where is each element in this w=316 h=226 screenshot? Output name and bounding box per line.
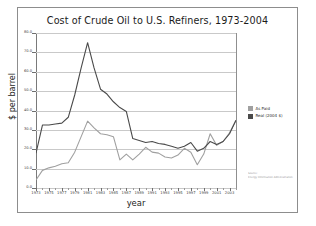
x-axis-tick-label: 2003 [225,192,234,196]
legend-item-label: As Paid [256,107,270,111]
x-axis-tick-minor [184,188,185,190]
x-axis-tick-minor [171,188,172,190]
source-line-2: Energy Information Administration [248,176,304,180]
chart-legend: As PaidReal (2004 $) [248,106,283,121]
x-axis-tick-minor [42,188,43,190]
chart-figure: Cost of Crude Oil to U.S. Refiners, 1973… [0,0,316,226]
y-axis-tick-label: 60.0 [18,70,32,74]
chart-title: Cost of Crude Oil to U.S. Refiners, 1973… [17,15,298,26]
x-axis-tick-label: 1973 [31,192,40,196]
x-axis-tick-minor [223,188,224,190]
y-axis-tick-label: 80.0 [18,31,32,35]
x-axis-tick-label: 1975 [44,192,53,196]
x-axis-tick-minor [197,188,198,190]
legend-swatch-icon [248,106,253,111]
x-axis-tick-label: 1981 [83,192,92,196]
series-lines [36,33,236,188]
x-axis-tick-minor [133,188,134,190]
plot-right-border [236,33,237,189]
x-axis-tick-label: 1999 [199,192,208,196]
legend-item[interactable]: Real (2004 $) [248,114,283,119]
y-axis-tick-label: 30.0 [18,128,32,132]
x-axis-tick-label: 1977 [57,192,66,196]
series-line-as-paid [36,120,236,180]
x-axis-tick-minor [120,188,121,190]
y-axis-tick-label: 20.0 [18,147,32,151]
x-axis-tick-label: 1995 [173,192,182,196]
x-axis-tick-label: 1993 [160,192,169,196]
x-axis-tick-label: 1997 [186,192,195,196]
y-axis-tick-label: 50.0 [18,89,32,93]
x-axis-tick-minor [68,188,69,190]
gridline [36,188,236,189]
x-axis-tick-minor [159,188,160,190]
x-axis-tick-minor [107,188,108,190]
y-axis-tick-label: 0.0 [18,186,32,190]
y-axis-label: $ per barrel [8,64,17,130]
y-axis-tick-label: 70.0 [18,50,32,54]
x-axis-tick-minor [210,188,211,190]
x-axis-label: year [36,198,236,208]
x-axis-tick-label: 1989 [135,192,144,196]
x-axis-tick-minor [94,188,95,190]
x-axis-tick-label: 1987 [122,192,131,196]
x-axis-tick-label: 1991 [147,192,156,196]
series-line-real-2004 [36,43,236,153]
x-axis-tick-minor [81,188,82,190]
y-axis-tick-label: 40.0 [18,109,32,113]
x-axis-tick-label: 1983 [96,192,105,196]
x-axis-tick-minor [236,188,237,190]
x-axis-tick-label: 1979 [70,192,79,196]
x-axis-tick-label: 1985 [109,192,118,196]
x-axis-tick-label: 2001 [212,192,221,196]
legend-swatch-icon [248,114,253,119]
x-axis-tick-minor [146,188,147,190]
y-axis-tick-label: 10.0 [18,167,32,171]
source-note: Source: Energy Information Administratio… [248,172,304,180]
legend-item[interactable]: As Paid [248,106,283,111]
x-axis-tick-minor [55,188,56,190]
legend-item-label: Real (2004 $) [256,114,283,118]
